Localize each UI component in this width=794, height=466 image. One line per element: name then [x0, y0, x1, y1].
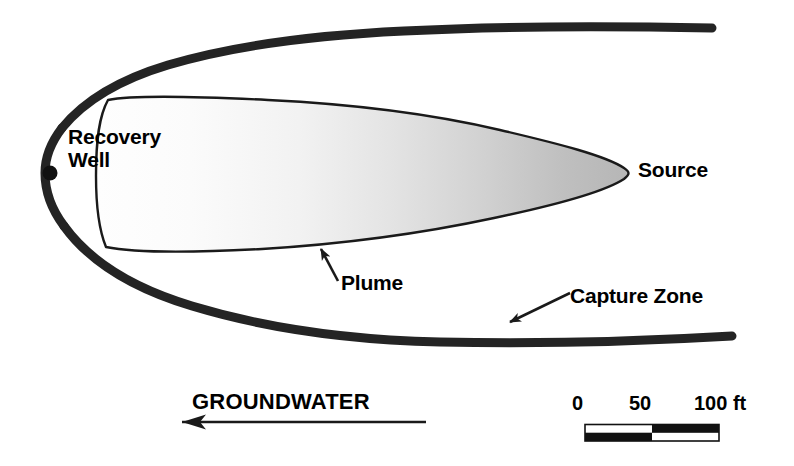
scale-tick-0: 0	[572, 392, 583, 415]
recovery-well-label: Recovery Well	[68, 126, 161, 171]
plume-leader-line	[321, 249, 338, 281]
scale-bar-graphic	[585, 425, 719, 442]
recovery-well-icon	[43, 166, 58, 181]
recovery-well-label-line1: Recovery	[68, 125, 161, 148]
plume-label: Plume	[341, 272, 403, 295]
source-label: Source	[638, 159, 708, 182]
recovery-well-label-line2: Well	[68, 149, 161, 172]
capture-zone-label: Capture Zone	[570, 285, 703, 308]
scale-tick-50: 50	[629, 392, 651, 415]
capture-zone-leader-line	[510, 293, 570, 322]
scale-tick-100: 100 ft	[694, 392, 746, 415]
groundwater-flow-label: GROUNDWATER	[192, 390, 370, 414]
figure-canvas: Recovery Well Source Plume Capture Zone …	[0, 0, 794, 466]
contaminant-plume-shape	[96, 97, 629, 252]
groundwater-capture-zone-diagram	[0, 0, 794, 466]
